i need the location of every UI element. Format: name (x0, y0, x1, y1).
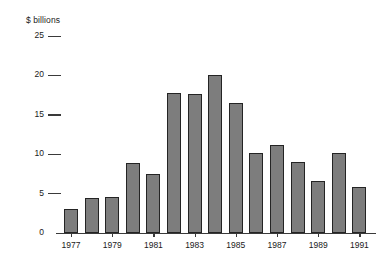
bar-1989 (311, 181, 325, 233)
y-tick-label: 25 (35, 30, 44, 40)
x-tick-label: 1989 (304, 240, 332, 250)
y-axis-title: $ billions (26, 15, 60, 25)
y-tick-label: 20 (35, 69, 44, 79)
bar-1980 (126, 163, 140, 233)
bar-1982 (167, 93, 181, 233)
y-tick-label: 15 (35, 109, 44, 119)
bar-1987 (270, 145, 284, 233)
y-tick-mark (48, 154, 61, 155)
y-tick-label: 0 (39, 227, 44, 237)
plot-area (62, 36, 372, 233)
bar-1991 (352, 187, 366, 233)
y-tick-mark (48, 36, 61, 37)
x-tick-label: 1977 (57, 240, 85, 250)
bar-1985 (229, 103, 243, 233)
x-tick-mark (277, 233, 278, 237)
bar-1988 (291, 162, 305, 233)
x-tick-mark (112, 233, 113, 237)
bar-1983 (188, 94, 202, 233)
x-tick-mark (359, 233, 360, 237)
bar-1978 (85, 198, 99, 233)
x-tick-label: 1981 (139, 240, 167, 250)
x-tick-mark (236, 233, 237, 237)
x-tick-label: 1983 (181, 240, 209, 250)
x-tick-mark (71, 233, 72, 237)
y-tick-mark (48, 193, 61, 194)
bar-1979 (105, 197, 119, 233)
x-tick-label: 1985 (222, 240, 250, 250)
bar-1986 (249, 153, 263, 233)
x-tick-mark (153, 233, 154, 237)
y-tick-mark (48, 75, 61, 76)
x-tick-label: 1979 (98, 240, 126, 250)
y-tick-label: 5 (39, 188, 44, 198)
bar-1981 (146, 174, 160, 233)
x-tick-label: 1987 (263, 240, 291, 250)
x-tick-label: 1991 (345, 240, 373, 250)
bar-1977 (64, 209, 78, 233)
x-tick-mark (195, 233, 196, 237)
bar-1990 (332, 153, 346, 233)
y-tick-mark (48, 114, 61, 115)
x-tick-mark (318, 233, 319, 237)
bar-chart: $ billions 19771979198119831985198719891… (0, 0, 388, 272)
bar-1984 (208, 75, 222, 233)
x-axis-line (56, 233, 376, 234)
y-tick-label: 10 (35, 148, 44, 158)
